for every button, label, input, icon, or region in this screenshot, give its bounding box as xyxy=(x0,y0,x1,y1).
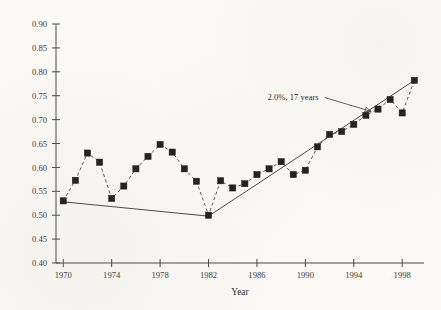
y-tick-label: 0.70 xyxy=(32,115,47,125)
data-point-marker xyxy=(387,96,393,102)
x-axis: 19701974197819821986199019941998 Year xyxy=(55,259,424,297)
y-tick-label: 0.45 xyxy=(32,234,47,244)
y-tick-label: 0.75 xyxy=(32,91,47,101)
x-tick-label: 1974 xyxy=(103,270,121,280)
y-axis: 0.400.450.500.550.600.650.700.750.800.85… xyxy=(32,19,60,268)
y-tick-label: 0.60 xyxy=(32,163,47,173)
data-point-marker xyxy=(290,171,296,177)
plot-area xyxy=(60,77,417,218)
data-point-marker xyxy=(375,106,381,112)
data-point-marker xyxy=(84,150,90,156)
data-point-marker xyxy=(411,77,417,83)
x-tick-label: 1970 xyxy=(55,270,72,280)
trend-line-declining xyxy=(63,202,208,216)
data-point-marker xyxy=(169,149,175,155)
data-point-marker xyxy=(193,178,199,184)
x-tick-label: 1990 xyxy=(297,270,314,280)
data-point-marker xyxy=(363,112,369,118)
data-point-marker xyxy=(109,195,115,201)
y-tick-label: 0.85 xyxy=(32,43,47,53)
annotation-leader-line xyxy=(325,98,371,112)
x-tick-label: 1982 xyxy=(200,270,217,280)
data-point-marker xyxy=(121,183,127,189)
data-point-marker xyxy=(145,153,151,159)
x-tick-label: 1986 xyxy=(248,270,266,280)
y-axis-tick-labels: 0.400.450.500.550.600.650.700.750.800.85… xyxy=(32,19,47,268)
data-point-marker xyxy=(205,212,211,218)
data-point-marker xyxy=(399,110,405,116)
y-tick-label: 0.50 xyxy=(32,210,47,220)
annotation-label: 2.0%, 17 years xyxy=(268,92,320,102)
x-axis-tick-labels: 19701974197819821986199019941998 xyxy=(55,270,411,280)
y-tick-label: 0.55 xyxy=(32,186,47,196)
data-point-marker xyxy=(339,128,345,134)
scatter-chart: 0.400.450.500.550.600.650.700.750.800.85… xyxy=(0,0,441,310)
data-point-marker xyxy=(60,198,66,204)
data-point-marker xyxy=(302,167,308,173)
data-point-marker xyxy=(218,178,224,184)
data-point-markers xyxy=(60,77,417,218)
chart-container: 0.400.450.500.550.600.650.700.750.800.85… xyxy=(0,0,441,310)
data-point-marker xyxy=(181,166,187,172)
annotation-group: 2.0%, 17 years xyxy=(268,92,372,113)
data-point-marker xyxy=(230,185,236,191)
data-point-marker xyxy=(96,159,102,165)
x-tick-label: 1994 xyxy=(345,270,363,280)
data-point-marker xyxy=(133,166,139,172)
y-tick-label: 0.40 xyxy=(32,258,47,268)
data-point-marker xyxy=(326,131,332,137)
data-point-marker xyxy=(314,144,320,150)
x-tick-label: 1998 xyxy=(394,270,411,280)
y-tick-label: 0.80 xyxy=(32,67,47,77)
data-point-marker xyxy=(278,159,284,165)
x-axis-title: Year xyxy=(231,287,249,297)
data-point-marker xyxy=(72,177,78,183)
data-point-marker xyxy=(351,121,357,127)
data-point-marker xyxy=(242,181,248,187)
data-point-marker xyxy=(157,141,163,147)
series-connector-line xyxy=(63,80,414,215)
data-point-marker xyxy=(254,171,260,177)
data-point-marker xyxy=(266,166,272,172)
y-tick-label: 0.90 xyxy=(32,19,47,29)
x-tick-label: 1978 xyxy=(152,270,169,280)
y-tick-label: 0.65 xyxy=(32,139,47,149)
